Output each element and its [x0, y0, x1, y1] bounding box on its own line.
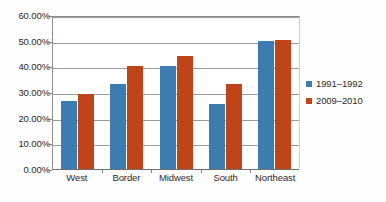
- y-axis-tick-label: 60.00%: [2, 11, 50, 21]
- bar-group: [102, 17, 151, 169]
- y-axis-tick-label: 10.00%: [2, 139, 50, 149]
- legend-item[interactable]: 1991–1992: [306, 78, 386, 89]
- bar[interactable]: [258, 41, 274, 169]
- bar-group: [53, 17, 102, 169]
- bar[interactable]: [127, 66, 143, 169]
- y-axis-tick-label: 50.00%: [2, 37, 50, 47]
- bar[interactable]: [110, 84, 126, 169]
- legend-swatch-icon: [306, 98, 312, 104]
- y-axis-tick-mark: [48, 170, 52, 171]
- bar[interactable]: [226, 84, 242, 169]
- x-axis-category-label: Midwest: [151, 172, 201, 183]
- legend-item[interactable]: 2009–2010: [306, 95, 386, 106]
- x-axis-category-label: Border: [102, 172, 152, 183]
- y-axis-tick-label: 20.00%: [2, 114, 50, 124]
- legend-swatch-icon: [306, 81, 312, 87]
- y-axis-tick-label: 0.00%: [2, 165, 50, 175]
- bar[interactable]: [160, 66, 176, 169]
- bar-group: [250, 17, 299, 169]
- chart-legend: 1991–19922009–2010: [306, 78, 386, 112]
- legend-label: 1991–1992: [316, 78, 363, 89]
- y-axis-tick-label: 30.00%: [2, 88, 50, 98]
- legend-label: 2009–2010: [316, 95, 363, 106]
- bar-chart: 0.00%10.00%20.00%30.00%40.00%50.00%60.00…: [0, 0, 386, 202]
- x-axis-category-label: South: [201, 172, 251, 183]
- y-axis-tick-labels: 0.00%10.00%20.00%30.00%40.00%50.00%60.00…: [0, 0, 50, 202]
- plot-area: [52, 16, 300, 170]
- bar[interactable]: [275, 40, 291, 169]
- y-axis-tick-label: 40.00%: [2, 62, 50, 72]
- plot-inner: [53, 17, 299, 170]
- bar[interactable]: [61, 101, 77, 169]
- bar[interactable]: [78, 94, 94, 169]
- bar-groups: [53, 17, 299, 169]
- bar[interactable]: [177, 56, 193, 169]
- x-axis-category-label: West: [52, 172, 102, 183]
- bar-group: [151, 17, 200, 169]
- bar-group: [201, 17, 250, 169]
- x-axis-baseline: [53, 169, 299, 170]
- x-axis-category-labels: WestBorderMidwestSouthNortheast: [52, 172, 300, 183]
- x-axis-category-label: Northeast: [250, 172, 300, 183]
- bar[interactable]: [209, 104, 225, 169]
